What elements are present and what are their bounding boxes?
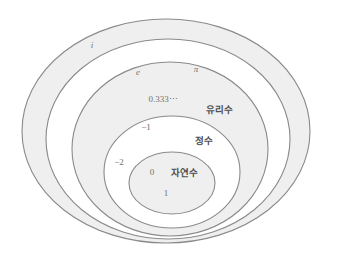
set-label-integer-numbers: 정수 xyxy=(195,135,213,146)
ellipse-natural-numbers xyxy=(129,152,215,214)
set-label-natural-numbers: 자연수 xyxy=(171,167,198,178)
label-negative-one: −1 xyxy=(141,122,151,132)
number-sets-venn-diagram: i e π 0.333⋯ −1 −2 0 1 유리수 정수 자연수 xyxy=(0,0,340,263)
label-eulers-number-e: e xyxy=(136,67,140,77)
label-zero: 0 xyxy=(150,167,155,177)
label-repeating-decimal-third: 0.333⋯ xyxy=(148,94,177,104)
label-one: 1 xyxy=(164,188,169,198)
label-pi: π xyxy=(194,64,199,74)
label-negative-two: −2 xyxy=(114,157,124,167)
set-label-rational-numbers: 유리수 xyxy=(206,104,233,115)
venn-diagram-canvas: i e π 0.333⋯ −1 −2 0 1 유리수 정수 자연수 xyxy=(0,0,340,263)
